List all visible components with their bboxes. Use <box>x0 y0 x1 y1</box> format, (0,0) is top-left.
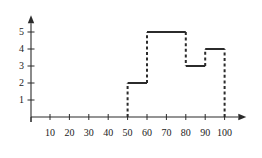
tick-marks-group <box>28 32 225 122</box>
x-axis-tick-label: 20 <box>64 128 74 138</box>
x-axis-tick-label: 30 <box>84 128 94 138</box>
y-axis-tick-label: 5 <box>19 27 24 37</box>
y-axis-tick-label: 1 <box>19 95 24 105</box>
y-axis-tick-label: 2 <box>19 78 24 88</box>
frequency-histogram-chart: 12345 102030405060708090100 <box>0 0 262 158</box>
x-axis-arrowhead <box>238 114 246 120</box>
x-axis-tick-label: 60 <box>142 128 152 138</box>
x-axis-tick-label: 50 <box>123 128 133 138</box>
y-axis-tick-label: 3 <box>19 61 24 71</box>
x-axis-tick-label: 100 <box>217 128 232 138</box>
x-axis-tick-label: 70 <box>161 128 171 138</box>
x-axis-tick-label: 80 <box>181 128 191 138</box>
axis-group <box>28 15 247 122</box>
histogram-outline-series <box>128 32 225 117</box>
x-axis-tick-label: 90 <box>200 128 210 138</box>
x-axis-tick-label: 40 <box>103 128 113 138</box>
x-axis-tick-label: 10 <box>45 128 55 138</box>
y-axis-tick-label: 4 <box>19 44 24 54</box>
y-axis-arrowhead <box>28 15 34 23</box>
